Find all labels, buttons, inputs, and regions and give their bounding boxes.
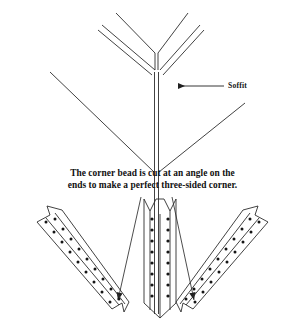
center-corner-bead <box>144 199 176 318</box>
corner-vertex-connector <box>155 53 158 70</box>
vertical-corner-spine <box>155 72 159 314</box>
caption-line-1: The corner bead is cut at an angle on th… <box>0 168 305 180</box>
lower-left-wall-edge <box>50 72 154 172</box>
caption-line-2: ends to make a perfect three-sided corne… <box>0 180 305 192</box>
lower-right-wall-edge <box>159 103 245 172</box>
left-corner-bead <box>37 206 129 312</box>
leader-lines-group <box>118 197 194 300</box>
corner-bead-diagram <box>0 0 305 326</box>
caption: The corner bead is cut at an angle on th… <box>0 168 305 191</box>
upper-left-soffit-edge <box>98 25 155 75</box>
leader-to-left-bead <box>118 197 141 300</box>
upper-right-wall-line <box>158 13 188 53</box>
leader-to-right-bead <box>172 197 194 300</box>
figure-root: Soffit The corner bead is cut at an angl… <box>0 0 305 326</box>
right-corner-bead <box>176 206 268 312</box>
soffit-label: Soffit <box>228 81 247 90</box>
upper-right-soffit-edge <box>160 25 204 75</box>
upper-left-wall-line <box>116 13 155 53</box>
